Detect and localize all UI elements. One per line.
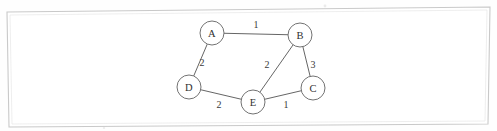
scan-speck: [103, 127, 105, 129]
graph-node-d[interactable]: D: [177, 75, 201, 99]
graph-node-a-label: A: [208, 28, 216, 39]
graph-node-b-label: B: [296, 30, 303, 41]
graph-node-e[interactable]: E: [241, 90, 265, 114]
edge-weight-b-c: 3: [311, 59, 316, 70]
graph-figure-svg: 1 2 2 3 2 1 A B C D: [0, 0, 497, 131]
graph-node-c[interactable]: C: [301, 76, 325, 100]
graph-node-b[interactable]: B: [288, 23, 312, 47]
figure-container: 1 2 2 3 2 1 A B C D: [0, 0, 497, 131]
graph-node-e-label: E: [250, 97, 257, 108]
graph-node-d-label: D: [185, 82, 193, 93]
edge-weight-b-e: 2: [265, 59, 270, 70]
graph-node-c-label: C: [309, 83, 316, 94]
edge-weight-a-b: 1: [254, 19, 259, 30]
edge-weight-a-d: 2: [200, 57, 205, 68]
edge-weight-d-e: 2: [217, 99, 222, 110]
edge-weight-e-c: 1: [284, 99, 289, 110]
scan-speck: [324, 5, 327, 8]
graph-node-a[interactable]: A: [200, 21, 224, 45]
